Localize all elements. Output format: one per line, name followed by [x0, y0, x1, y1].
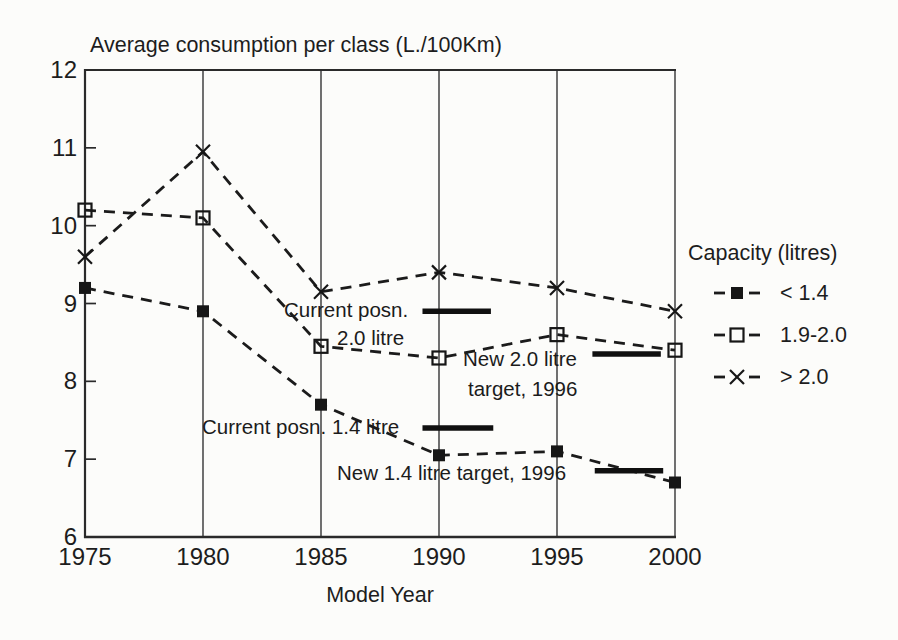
- y-tick-label-10: 10: [0, 212, 77, 240]
- legend: Capacity (litres) < 1.41.9-2.0> 2.0: [688, 241, 893, 398]
- legend-items: < 1.41.9-2.0> 2.0: [688, 272, 893, 398]
- chart-page: Average consumption per class (L./100Km)…: [0, 0, 898, 640]
- annotation-3: target, 1996: [468, 377, 577, 401]
- marker-filled-square: [79, 282, 91, 294]
- x-tick-label-1975: 1975: [40, 543, 130, 571]
- annotation-4: Current posn. 1.4 litre: [202, 415, 399, 439]
- annotation-2: New 2.0 litre: [463, 347, 577, 371]
- x-tick-label-2000: 2000: [630, 543, 720, 571]
- x-tick-label-1990: 1990: [394, 543, 484, 571]
- y-tick-label-11: 11: [0, 134, 77, 162]
- marker-filled-square: [551, 445, 563, 457]
- y-tick-label-12: 12: [0, 56, 77, 84]
- x-cross-icon: [714, 365, 760, 389]
- legend-item-label: 1.9-2.0: [780, 323, 847, 348]
- annotation-5: New 1.4 litre target, 1996: [337, 461, 566, 485]
- annotation-0: Current posn.: [284, 298, 408, 322]
- chart-title: Average consumption per class (L./100Km): [90, 33, 502, 58]
- marker-filled-square: [669, 477, 681, 489]
- x-tick-label-1995: 1995: [512, 543, 602, 571]
- legend-title: Capacity (litres): [688, 241, 893, 266]
- y-tick-label-9: 9: [0, 290, 77, 318]
- x-axis-title: Model Year: [280, 583, 480, 608]
- annotation-1: 2.0 litre: [337, 326, 404, 350]
- open-square-icon: [714, 323, 760, 347]
- x-tick-label-1985: 1985: [276, 543, 366, 571]
- marker-filled-square: [315, 399, 327, 411]
- legend-item-label: > 2.0: [780, 365, 828, 390]
- y-tick-label-7: 7: [0, 445, 77, 473]
- filled-square-icon: [714, 281, 760, 305]
- legend-item-1: 1.9-2.0: [688, 314, 893, 356]
- series-line-2: [85, 152, 675, 312]
- x-tick-label-1980: 1980: [158, 543, 248, 571]
- legend-item-0: < 1.4: [688, 272, 893, 314]
- marker-filled-square: [433, 449, 445, 461]
- legend-item-2: > 2.0: [688, 356, 893, 398]
- legend-item-label: < 1.4: [780, 281, 828, 306]
- marker-filled-square: [197, 305, 209, 317]
- y-tick-label-8: 8: [0, 367, 77, 395]
